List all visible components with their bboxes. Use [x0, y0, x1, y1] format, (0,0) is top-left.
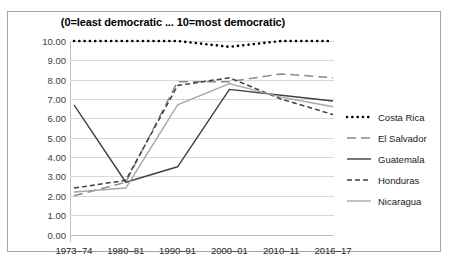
series-line-el-salvador — [74, 74, 333, 196]
series-layer — [70, 41, 334, 242]
x-axis-tick-label: 2016–17 — [315, 245, 352, 256]
y-axis-tick-label: 3.00 — [48, 171, 67, 182]
x-axis-labels: 1973–741980–811990–912000–012010–112016–… — [70, 245, 340, 259]
chart-title: (0=least democratic ... 10=most democrat… — [8, 16, 338, 28]
x-axis-tick-label: 1980–81 — [107, 245, 144, 256]
legend-item-el-salvador[interactable]: El Salvador — [346, 129, 446, 147]
legend-label: Honduras — [378, 175, 419, 186]
y-axis-labels: 10.009.008.007.006.005.004.003.002.001.0… — [24, 41, 66, 242]
x-axis-tick-label: 1973–74 — [56, 245, 93, 256]
legend-label: Nicaragua — [378, 196, 421, 207]
y-axis-tick-label: 4.00 — [48, 152, 67, 163]
legend-label: El Salvador — [378, 133, 427, 144]
x-axis-tick-label: 2010–11 — [263, 245, 299, 256]
y-axis-tick-label: 1.00 — [48, 210, 67, 221]
chart-screenshot: (0=least democratic ... 10=most democrat… — [0, 0, 450, 264]
legend-item-costa-rica[interactable]: Costa Rica — [346, 108, 446, 126]
y-axis-tick-label: 6.00 — [48, 113, 67, 124]
series-line-nicaragua — [74, 84, 333, 192]
plot-area — [70, 41, 334, 242]
clipped-header-text — [0, 0, 450, 9]
y-axis-tick-label: 2.00 — [48, 190, 67, 201]
y-axis-tick-label: 10.00 — [42, 36, 66, 47]
chart-legend: Costa RicaEl SalvadorGuatemalaHondurasNi… — [346, 108, 446, 213]
chart-frame: (0=least democratic ... 10=most democrat… — [7, 11, 441, 252]
y-axis-tick-label: 7.00 — [48, 94, 67, 105]
legend-swatch-icon — [346, 174, 372, 186]
series-line-costa-rica — [74, 41, 333, 47]
y-axis-tick-label: 5.00 — [48, 132, 67, 143]
legend-swatch-icon — [346, 153, 372, 165]
legend-swatch-icon — [346, 111, 372, 123]
x-axis-tick-label: 1990–91 — [159, 245, 196, 256]
y-axis-tick-label: 8.00 — [48, 74, 67, 85]
legend-item-honduras[interactable]: Honduras — [346, 171, 446, 189]
legend-swatch-icon — [346, 195, 372, 207]
y-axis-tick-label: 0.00 — [48, 229, 67, 240]
legend-swatch-icon — [346, 132, 372, 144]
legend-item-guatemala[interactable]: Guatemala — [346, 150, 446, 168]
legend-label: Costa Rica — [378, 112, 424, 123]
x-axis-tick-label: 2000–01 — [211, 245, 248, 256]
y-axis-tick-label: 9.00 — [48, 55, 67, 66]
legend-item-nicaragua[interactable]: Nicaragua — [346, 192, 446, 210]
legend-label: Guatemala — [378, 154, 424, 165]
